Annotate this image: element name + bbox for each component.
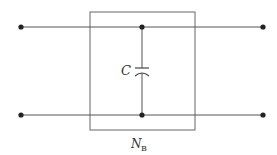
terminal-bottom-right: [260, 112, 265, 117]
network-label-subscript: B: [141, 144, 147, 153]
junction-top: [139, 24, 144, 29]
circuit-diagram: C N B: [0, 0, 277, 155]
capacitor-label: C: [121, 63, 131, 78]
terminal-top-right: [260, 24, 265, 29]
junction-bottom: [139, 112, 144, 117]
terminal-bottom-left: [18, 112, 23, 117]
terminal-top-left: [18, 24, 23, 29]
